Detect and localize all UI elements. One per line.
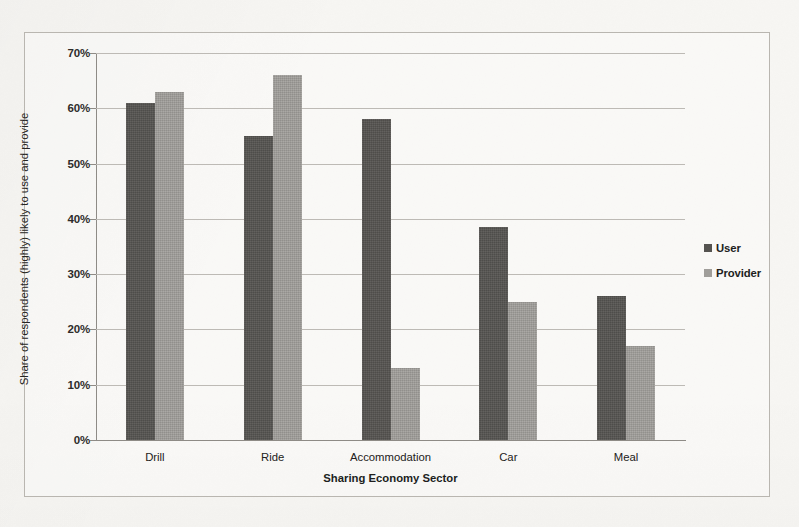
legend-swatch-icon-provider — [704, 269, 712, 277]
x-axis-line — [96, 440, 686, 441]
y-tick-label: 30% — [44, 268, 90, 280]
legend-item-user[interactable]: User — [704, 242, 766, 254]
plot-area — [96, 53, 685, 440]
gridline — [96, 53, 685, 54]
bar-ride-provider[interactable] — [273, 75, 302, 440]
x-category-label-accommodation: Accommodation — [350, 451, 431, 463]
x-category-label-car: Car — [499, 451, 517, 463]
bar-accommodation-provider[interactable] — [391, 368, 420, 440]
legend-swatch-icon-user — [704, 244, 712, 252]
bar-meal-provider[interactable] — [626, 346, 655, 440]
x-category-label-meal: Meal — [614, 451, 639, 463]
x-category-label-drill: Drill — [145, 451, 164, 463]
bar-drill-user[interactable] — [126, 103, 155, 440]
gridline — [96, 108, 685, 109]
gridline — [96, 274, 685, 275]
y-tick-mark — [90, 219, 96, 220]
x-category-label-ride: Ride — [261, 451, 284, 463]
y-tick-label: 20% — [44, 323, 90, 335]
y-tick-mark — [90, 53, 96, 54]
gridline — [96, 219, 685, 220]
y-tick-label: 10% — [44, 379, 90, 391]
y-axis-title: Share of respondents (highly) likely to … — [18, 84, 30, 414]
y-axis-ticks: 0%10%20%30%40%50%60%70% — [0, 0, 90, 527]
y-tick-label: 60% — [44, 102, 90, 114]
gridline — [96, 164, 685, 165]
y-tick-mark — [90, 385, 96, 386]
chart-legend: UserProvider — [704, 242, 766, 292]
y-tick-mark — [90, 329, 96, 330]
y-tick-label: 0% — [44, 434, 90, 446]
x-axis-title: Sharing Economy Sector — [96, 472, 685, 484]
legend-label: Provider — [716, 267, 761, 279]
legend-item-provider[interactable]: Provider — [704, 267, 766, 279]
y-tick-label: 50% — [44, 158, 90, 170]
bar-car-user[interactable] — [479, 227, 508, 440]
bar-ride-user[interactable] — [244, 136, 273, 440]
y-tick-mark — [90, 108, 96, 109]
legend-label: User — [716, 242, 741, 254]
y-tick-label: 70% — [44, 47, 90, 59]
bar-accommodation-user[interactable] — [362, 119, 391, 440]
y-tick-mark — [90, 274, 96, 275]
bar-meal-user[interactable] — [597, 296, 626, 440]
y-tick-mark — [90, 440, 96, 441]
bar-car-provider[interactable] — [508, 302, 537, 440]
y-tick-mark — [90, 164, 96, 165]
y-tick-label: 40% — [44, 213, 90, 225]
bar-drill-provider[interactable] — [155, 92, 184, 440]
